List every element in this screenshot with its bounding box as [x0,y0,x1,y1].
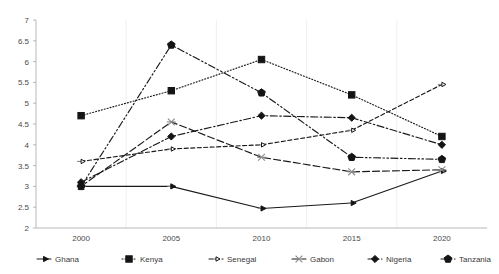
data-point-nigeria-2020 [438,141,445,148]
series-line-ghana [81,171,442,208]
x-axis-tick-labels: 20002005201020152020 [72,234,451,243]
chart-legend: GhanaKenyaSenegalGabonNigeriaTanzania [37,255,492,264]
data-point-nigeria-2015 [348,114,355,121]
legend-label: Ghana [55,255,80,264]
legend-item-tanzania[interactable]: Tanzania [441,255,492,264]
data-point-tanzania-2020 [438,155,446,162]
data-point-ghana-2015 [348,200,357,205]
legend-label: Kenya [140,255,163,264]
y-tick-label: 4 [25,141,30,150]
legend-label: Tanzania [459,255,492,264]
y-tick-label: 4.5 [18,120,30,129]
x-tick-label: 2015 [343,234,361,243]
series-ghana [77,168,446,211]
y-tick-label: 5.5 [18,78,30,87]
series-kenya [78,56,445,139]
data-point-senegal-2010 [258,143,266,147]
legend-item-kenya[interactable]: Kenya [122,255,163,264]
x-tick-label: 2020 [433,234,451,243]
data-point-ghana-2010 [258,206,267,211]
data-point-gabon-2010 [257,154,266,161]
legend-marker-gabon [295,256,304,263]
y-tick-label: 5 [25,99,30,108]
axis-layer [36,20,487,228]
data-point-tanzania-2015 [348,153,356,160]
y-tick-label: 3 [25,182,30,191]
data-point-tanzania-2005 [168,41,176,48]
x-tick-label: 2000 [72,234,90,243]
y-tick-label: 3.5 [18,162,30,171]
data-point-kenya-2005 [168,88,174,94]
legend-item-senegal[interactable]: Senegal [209,255,257,264]
y-tick-label: 6.5 [18,37,30,46]
y-tick-label: 7 [25,16,30,25]
legend-item-ghana[interactable]: Ghana [37,255,80,264]
legend-item-nigeria[interactable]: Nigeria [368,255,412,264]
legend-label: Nigeria [386,255,412,264]
y-axis-tick-labels: 22.533.544.555.566.57 [18,16,36,233]
data-point-kenya-2000 [78,112,84,118]
x-tick-label: 2010 [253,234,271,243]
series-line-nigeria [81,116,442,183]
data-point-ghana-2005 [167,184,176,189]
chart-canvas: 22.533.544.555.566.57 200020052010201520… [0,0,499,274]
y-tick-label: 6 [25,58,30,67]
y-tick-label: 2 [25,224,30,233]
data-point-nigeria-2005 [168,133,175,140]
legend-marker-tanzania [444,255,452,262]
data-point-tanzania-2010 [258,89,266,96]
data-point-kenya-2015 [349,92,355,98]
legend-label: Gabon [310,255,334,264]
legend-item-gabon[interactable]: Gabon [292,255,334,264]
legend-marker-nigeria [371,255,378,262]
y-tick-label: 2.5 [18,203,30,212]
legend-label: Senegal [227,255,257,264]
line-chart: 22.533.544.555.566.57 200020052010201520… [0,0,499,274]
legend-marker-ghana [40,256,49,261]
data-point-nigeria-2010 [258,112,265,119]
data-point-kenya-2020 [439,133,445,139]
data-point-senegal-2005 [167,147,175,151]
series-line-kenya [81,60,442,137]
series-layer [77,41,447,211]
data-point-kenya-2010 [258,56,264,62]
data-point-senegal-2000 [77,159,85,163]
x-tick-label: 2005 [162,234,180,243]
data-point-gabon-2005 [167,119,176,126]
legend-marker-kenya [126,256,132,262]
data-point-gabon-2015 [347,168,356,175]
legend-marker-senegal [212,257,220,261]
